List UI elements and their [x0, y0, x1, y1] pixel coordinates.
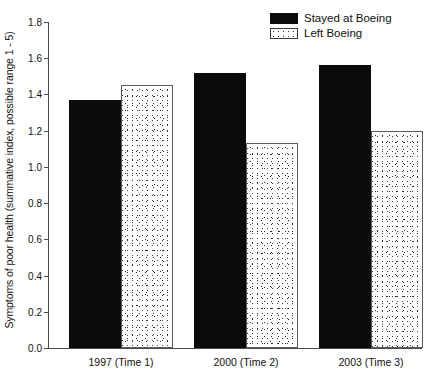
bar: [319, 65, 371, 348]
bar: [121, 85, 173, 348]
x-axis-line: [48, 348, 422, 349]
y-axis-tick-mark: [44, 94, 48, 95]
y-axis-tick-mark: [44, 239, 48, 240]
bar: [69, 100, 121, 348]
bar: [246, 143, 298, 348]
legend-item: Left Boeing: [270, 27, 392, 39]
y-axis-tick-label: 0.2: [28, 306, 42, 317]
y-axis-tick-label: 0.6: [28, 234, 42, 245]
y-axis-tick-label: 1.6: [28, 53, 42, 64]
legend-label: Left Boeing: [304, 27, 362, 39]
y-axis-tick-mark: [44, 58, 48, 59]
legend-swatch: [270, 13, 298, 24]
x-axis-category-label: 2000 (Time 2): [214, 356, 279, 368]
legend-item: Stayed at Boeing: [270, 12, 392, 24]
y-axis-tick-label: 0.8: [28, 198, 42, 209]
y-axis-tick-mark: [44, 203, 48, 204]
y-axis-tick-mark: [44, 348, 48, 349]
y-axis-tick-mark: [44, 167, 48, 168]
y-axis-tick-label: 1.4: [28, 89, 42, 100]
y-axis-tick-label: 0.4: [28, 270, 42, 281]
y-axis-title: Symptoms of poor health (summative index…: [0, 0, 18, 360]
y-axis-tick-mark: [44, 276, 48, 277]
x-axis-category-label: 2003 (Time 3): [339, 356, 404, 368]
chart-legend: Stayed at BoeingLeft Boeing: [270, 12, 392, 39]
legend-swatch: [270, 28, 298, 39]
bar-chart: Symptoms of poor health (summative index…: [0, 0, 428, 380]
y-axis-tick-label: 0.0: [28, 343, 42, 354]
y-axis-tick-label: 1.2: [28, 125, 42, 136]
bar: [194, 73, 246, 348]
y-axis-tick-mark: [44, 22, 48, 23]
y-axis-line: [48, 22, 49, 349]
plot-area: 0.00.20.40.60.81.01.21.41.61.8 1997 (Tim…: [48, 22, 422, 348]
bar: [371, 131, 423, 348]
legend-label: Stayed at Boeing: [304, 12, 392, 24]
y-axis-tick-label: 1.8: [28, 17, 42, 28]
y-axis-tick-mark: [44, 131, 48, 132]
y-axis-tick-mark: [44, 312, 48, 313]
y-axis-title-text: Symptoms of poor health (summative index…: [3, 31, 15, 328]
x-axis-category-label: 1997 (Time 1): [89, 356, 154, 368]
y-axis-tick-label: 1.0: [28, 161, 42, 172]
